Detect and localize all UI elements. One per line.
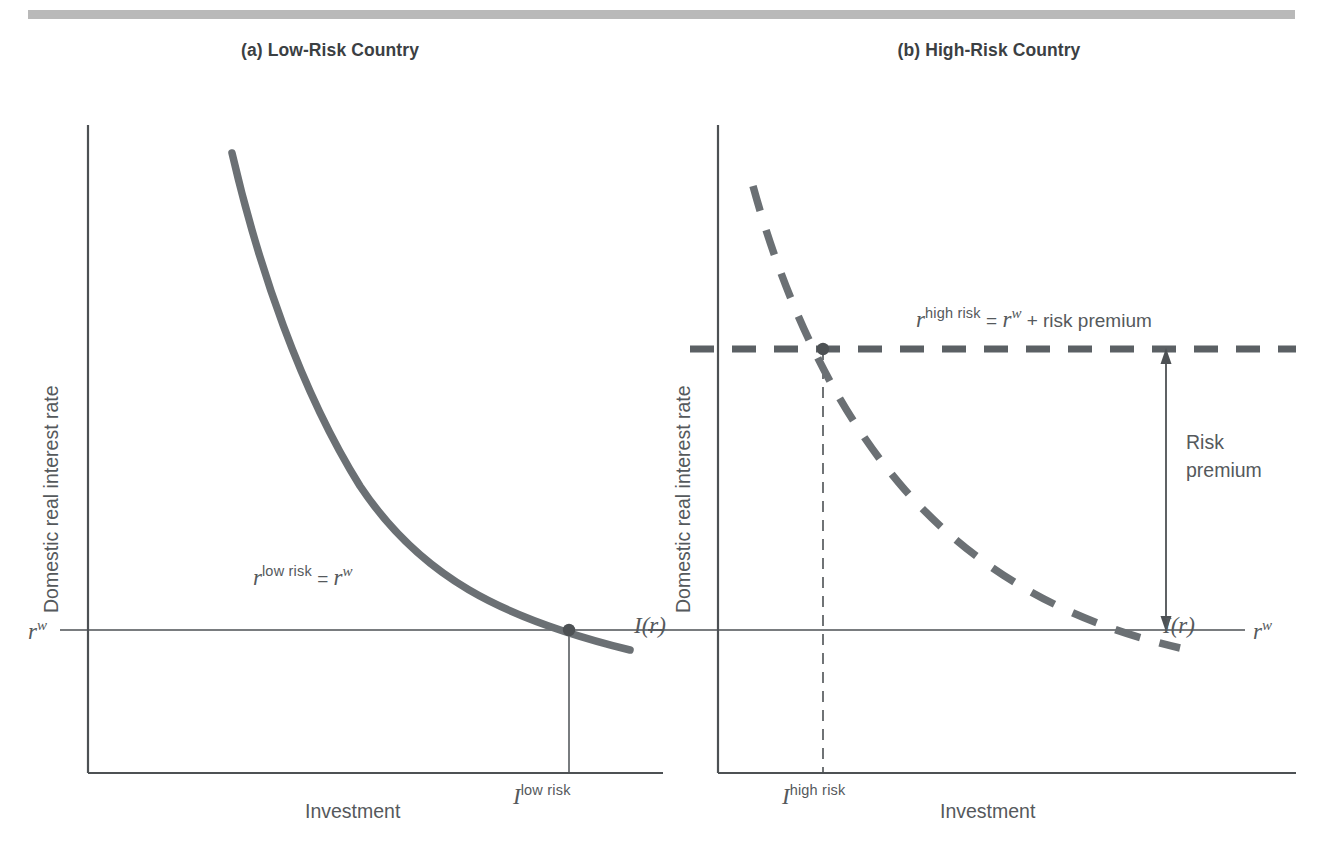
panel-b-investment-curve	[753, 186, 1180, 648]
panel-b-eq-lhs-base: r	[916, 307, 925, 332]
panel-a-equilibrium-point	[563, 624, 575, 636]
figure-root: (a) Low-Risk Country (b) High-Risk Count…	[0, 0, 1319, 849]
panel-b-eq-tail: + risk premium	[1027, 310, 1152, 331]
panel-b-y-axis-label: Domestic real interest rate	[672, 385, 695, 613]
panel-b-x-axis-label: Investment	[940, 800, 1035, 823]
panel-a-world-rate-tick-label: rw	[28, 617, 47, 645]
panel-a-eq-rhs-base: r	[334, 565, 343, 590]
panel-a-eqtick-base: I	[513, 784, 521, 809]
panel-a-curve-label: I(r)	[634, 613, 666, 639]
panel-b-world-rate-tick-label: rw	[1253, 617, 1272, 645]
panel-b-eq-operator: =	[986, 310, 997, 331]
panel-a-y-axis-label: Domestic real interest rate	[40, 385, 63, 613]
panel-a-world-rate-sup: w	[37, 617, 47, 633]
panel-a-eq-lhs-base: r	[253, 565, 262, 590]
panel-b-eq-rhs-sup: w	[1011, 305, 1021, 321]
panel-a-rate-line-equation: rlow risk = rw	[253, 563, 353, 591]
panel-a-eq-lhs-sup: low risk	[262, 563, 312, 579]
panel-a-graph	[60, 125, 663, 773]
panel-b-rate-line-equation: rhigh risk = rw + risk premium	[916, 305, 1152, 333]
panel-b-world-rate-base: r	[1253, 619, 1262, 644]
panel-b-eqtick-sup: high risk	[790, 782, 846, 798]
figure-drawing	[0, 0, 1319, 849]
panel-a-x-axis-label: Investment	[305, 800, 400, 823]
panel-b-curve-label: I(r)	[1163, 613, 1195, 639]
panel-a-eq-operator: =	[317, 568, 328, 589]
panel-a-equilibrium-tick-label: Ilow risk	[513, 782, 571, 810]
panel-b-equilibrium-tick-label: Ihigh risk	[782, 782, 845, 810]
panel-b-equilibrium-point	[817, 343, 829, 355]
panel-a-eqtick-sup: low risk	[521, 782, 571, 798]
panel-a-world-rate-base: r	[28, 619, 37, 644]
panel-b-risk-premium-annotation: Risk premium	[1186, 428, 1262, 484]
panel-b-world-rate-sup: w	[1262, 617, 1272, 633]
panel-b-risk-premium-arrow	[1161, 348, 1172, 632]
panel-b-eq-lhs-sup: high risk	[925, 305, 981, 321]
panel-b-eqtick-base: I	[782, 784, 790, 809]
panel-a-eq-rhs-sup: w	[343, 563, 353, 579]
